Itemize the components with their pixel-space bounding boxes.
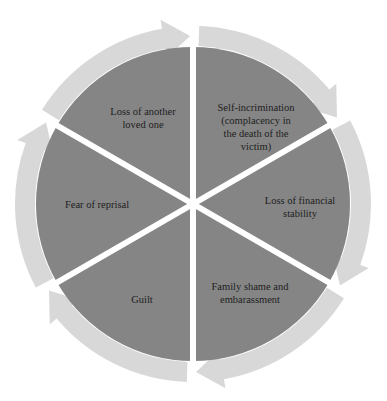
segment-label-loss-of-loved-one: Loss of another loved one bbox=[110, 105, 175, 131]
segment-label-guilt: Guilt bbox=[131, 293, 153, 306]
segment-label-fear-of-reprisal: Fear of reprisal bbox=[65, 198, 129, 211]
segment-label-loss-of-financial-stability: Loss of financial stability bbox=[265, 194, 336, 220]
segment-label-family-shame: Family shame and embarassment bbox=[212, 280, 289, 306]
cycle-diagram: Self-incrimination (complacency in the d… bbox=[0, 0, 387, 401]
segment-label-self-incrimination: Self-incrimination (complacency in the d… bbox=[218, 101, 295, 153]
